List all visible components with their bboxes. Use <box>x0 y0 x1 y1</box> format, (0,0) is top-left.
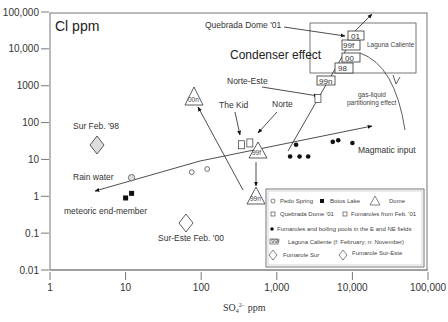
y-tick-label: 10,000 <box>8 43 39 54</box>
x-label-base: SO <box>223 302 236 313</box>
mixing-line-right <box>200 126 372 161</box>
x-axis-label: SO42-ppm <box>223 302 266 314</box>
legend-laguna-label: Laguna Caliente (f: February; n: Novembe… <box>288 239 404 245</box>
gas-liquid-label-1: gas-liquid <box>358 91 386 99</box>
legend-pedo-label: Pedo Spring <box>280 198 313 204</box>
quebrada-dome-label: Quebrada Dome '01 <box>205 20 282 30</box>
legend-sureste-label: Fumarole Sur-Este <box>352 250 403 256</box>
botos-lake-point <box>129 191 134 196</box>
lc-label-98: 98 <box>338 64 347 73</box>
fumaroles-and-boiling-pools-in-the-e-and-ne-fields-point <box>297 154 302 159</box>
legend-fumpools-label: Fumaroles and boiling pools in the E and… <box>277 226 411 232</box>
x-tick-label: 100 <box>193 282 210 293</box>
scatter-points <box>123 94 355 200</box>
dome-00n-label: 00n <box>188 96 199 103</box>
lc-label-00: 00 <box>345 54 354 63</box>
sur-este-feb-00-label: Sur-Este Feb. '00 <box>158 233 224 243</box>
fumarole-sur-este-marker <box>179 214 193 232</box>
x-tick-label: 10,000 <box>337 282 368 293</box>
x-tick-label: 1,000 <box>264 282 289 293</box>
legend-fumfeb-icon <box>343 212 347 216</box>
rain-water-point <box>128 174 134 180</box>
legend-sur-label: Fumarole Sur <box>283 252 319 258</box>
meteoric-end-member-label: meteoric end-member <box>64 206 147 216</box>
fumaroles-and-boiling-pools-in-the-e-and-ne-fields-point <box>288 154 293 159</box>
legend-quebrada-label: Quebrada Dome '01 <box>280 211 335 217</box>
laguna-caliente-label: Laguna Caliente <box>367 41 415 49</box>
botos-lake-point <box>123 195 128 200</box>
norte-arrow <box>258 112 277 133</box>
dome-99n-label: 99n <box>250 195 261 202</box>
the-kid-arrow <box>235 112 240 135</box>
y-tick-label: 1000 <box>17 80 40 91</box>
fumaroles-from-feb-01-point <box>247 139 253 147</box>
y-tick-label: 10 <box>28 154 40 165</box>
x-label-sub: 4 <box>236 308 239 314</box>
fumaroles-and-boiling-pools-in-the-e-and-ne-fields-point <box>294 142 299 147</box>
y-axis-label: Cl ppm <box>55 18 99 34</box>
fumaroles-and-boiling-pools-in-the-e-and-ne-fields-point <box>330 140 335 145</box>
fumarole-sur-marker <box>90 136 104 154</box>
y-tick-label: 0.1 <box>25 228 39 239</box>
fumaroles-from-feb-01-point <box>315 94 321 102</box>
x-tick-label: 1 <box>47 282 53 293</box>
pedo-spring-point <box>205 167 210 172</box>
x-axis: 1101001,00010,000100,000 <box>47 270 446 293</box>
legend-laguna-icon-text: 99f <box>271 238 280 244</box>
gas-liquid-curve-arrowhead <box>393 75 400 84</box>
y-tick-label: 100,000 <box>3 7 40 18</box>
cl-vs-so4-chart: 0.010.1110100100010,000100,000 1101001,0… <box>0 0 448 322</box>
pedo-spring-point <box>189 170 194 175</box>
the-kid-label: The Kid <box>219 100 249 110</box>
sur-feb-98-label: Sur Feb. '98 <box>73 121 119 131</box>
fumaroles-and-boiling-pools-in-the-e-and-ne-fields-point <box>350 141 355 146</box>
condenser-effect-label: Condenser effect <box>230 48 322 62</box>
legend-fumpools-icon <box>270 227 274 231</box>
gas-liquid-label-2: partitioning effect <box>347 99 397 107</box>
quebrada-dome-01-point <box>238 141 244 149</box>
legend-fumfeb-label: Fumaroles from Feb. '01 <box>351 211 417 217</box>
legend-botos-icon <box>320 199 324 203</box>
magmatic-input-label: Magmatic input <box>358 145 416 155</box>
norte-label: Norte <box>272 99 293 109</box>
norte-este-arrow <box>262 87 318 96</box>
y-tick-label: 100 <box>22 117 39 128</box>
lc-label-01: 01 <box>351 32 360 41</box>
x-label-unit: ppm <box>248 302 266 313</box>
fumaroles-and-boiling-pools-in-the-e-and-ne-fields-point <box>306 154 311 159</box>
x-tick-label: 100,000 <box>410 282 447 293</box>
x-tick-label: 10 <box>120 282 132 293</box>
quebrada-arrow <box>284 27 345 36</box>
legend-quebrada-icon <box>271 212 275 216</box>
norte-este-label: Norte-Este <box>227 76 268 86</box>
x-label-sup: 2- <box>239 302 244 308</box>
lc-label-99n: 99n <box>319 77 332 86</box>
fumaroles-and-boiling-pools-in-the-e-and-ne-fields-point <box>336 138 341 143</box>
legend-dome-label: Dome <box>389 198 406 204</box>
lc-label-99f: 99f <box>343 41 355 50</box>
y-tick-label: 0.01 <box>20 265 40 276</box>
laguna-caliente-points: 99n 98 00 99f 01 <box>317 31 364 86</box>
y-axis: 0.010.1110100100010,000100,000 <box>3 7 49 276</box>
rain-water-label: Rain water <box>73 172 114 182</box>
condenser-arrow <box>353 14 372 33</box>
legend-pedo-icon <box>271 199 275 203</box>
legend: Pedo Spring Botos Lake Dome Quebrada Dom… <box>266 189 424 267</box>
legend-botos-label: Botos Lake <box>330 198 361 204</box>
y-tick-label: 1 <box>33 191 39 202</box>
laguna-caliente-box <box>310 23 416 73</box>
dome-99f-label: 99f <box>252 149 261 156</box>
